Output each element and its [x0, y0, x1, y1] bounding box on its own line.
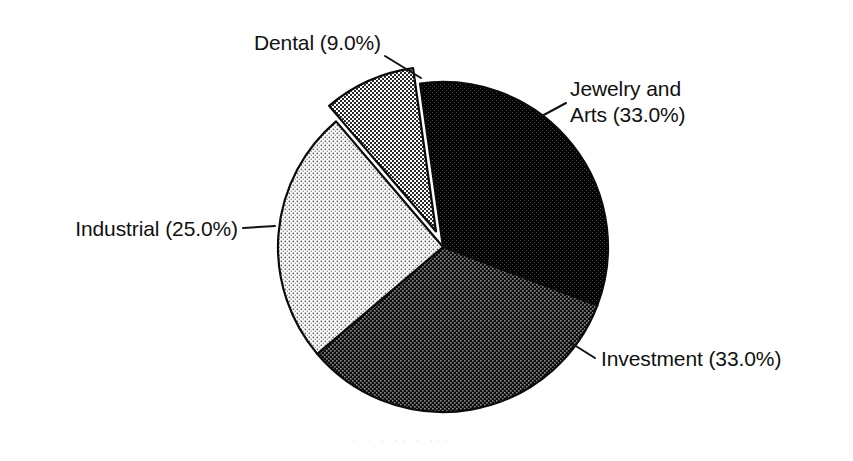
pie-chart-figure: Dental (9.0%) Jewelry and Arts (33.0%) I…: [0, 0, 853, 461]
pie-slices: [278, 68, 608, 412]
label-jewelry-and-arts-line1: Jewelry and: [570, 77, 681, 100]
leader-line-investment: [571, 343, 595, 358]
label-jewelry-and-arts-line2: Arts (33.0%): [570, 103, 686, 126]
scan-artifact-text: · · · ·· · ···: [352, 432, 562, 450]
label-dental: Dental (9.0%): [254, 31, 381, 54]
leader-line-jewelry-and-arts: [540, 103, 566, 117]
pie-chart-canvas: Dental (9.0%) Jewelry and Arts (33.0%) I…: [0, 0, 853, 461]
label-industrial: Industrial (25.0%): [75, 217, 238, 240]
label-investment: Investment (33.0%): [601, 347, 781, 370]
leader-line-industrial: [243, 226, 275, 228]
